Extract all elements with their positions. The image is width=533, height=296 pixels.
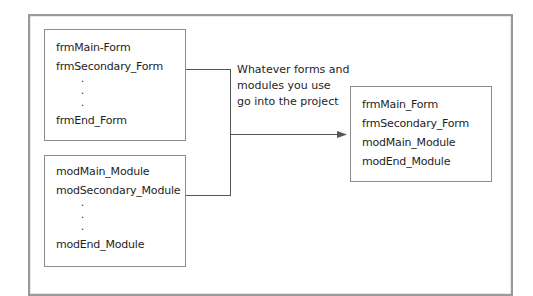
project-item: modMain_Module [362,136,455,149]
project-item: modEnd_Module [362,155,450,168]
ellipsis-dot: . [81,198,84,208]
form-item: frmEnd_Form [56,114,127,127]
arrow-shaft [231,134,341,135]
caption-line: Whatever forms and [237,62,350,78]
caption-line: go into the project [237,94,350,110]
ellipsis-dot: . [81,222,84,232]
connector-forms-horizontal [186,69,231,70]
ellipsis-dot: . [81,74,84,84]
connector-modules-horizontal [186,195,231,196]
ellipsis-dot: . [81,98,84,108]
caption: Whatever forms and modules you use go in… [237,62,350,110]
form-item: frmMain-Form [56,41,130,54]
caption-line: modules you use [237,78,350,94]
project-item: frmSecondary_Form [362,117,469,130]
connector-vertical [230,69,231,195]
module-item: modMain_Module [56,165,149,178]
module-item: modSecondary_Module [56,184,180,197]
project-item: frmMain_Form [362,98,438,111]
arrowhead-icon [337,130,347,139]
ellipsis-dot: . [81,210,84,220]
form-item: frmSecondary_Form [56,60,163,73]
module-item: modEnd_Module [56,238,144,251]
ellipsis-dot: . [81,86,84,96]
